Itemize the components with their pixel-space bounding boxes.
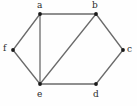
graph-vertex-f bbox=[11, 48, 15, 52]
graph-vertex-e bbox=[38, 82, 42, 86]
graph-vertex-d bbox=[94, 82, 98, 86]
graph-edge-a-f bbox=[13, 14, 40, 50]
graph-vertex-label-f: f bbox=[3, 44, 6, 53]
graph-edge-c-d bbox=[96, 50, 123, 84]
graph-vertex-a bbox=[38, 12, 42, 16]
graph-vertex-label-c: c bbox=[127, 45, 132, 54]
graph-vertex-label-a: a bbox=[37, 1, 42, 10]
graph-edge-b-c bbox=[96, 14, 123, 50]
graph-vertex-c bbox=[121, 48, 125, 52]
graph-vertex-label-b: b bbox=[92, 1, 98, 10]
graph-edge-f-e bbox=[13, 50, 40, 84]
graph-vertex-b bbox=[94, 12, 98, 16]
graph-figure: abcdef bbox=[0, 0, 137, 106]
graph-edge-e-b bbox=[40, 14, 96, 84]
graph-canvas bbox=[0, 0, 137, 106]
graph-vertex-label-d: d bbox=[93, 90, 99, 99]
graph-vertex-label-e: e bbox=[37, 90, 42, 99]
edge-layer bbox=[13, 14, 123, 84]
